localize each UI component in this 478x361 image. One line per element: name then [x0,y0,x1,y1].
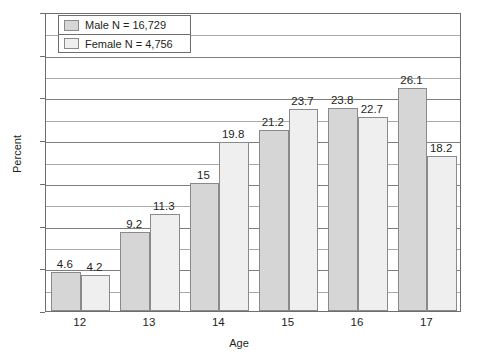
y-axis-title: Percent [11,109,23,199]
bar-female-age-14 [219,142,249,311]
legend-label-male: Male N = 16,729 [85,19,166,31]
x-tick-label-14: 14 [188,316,248,328]
legend: Male N = 16,729 Female N = 4,756 [58,15,191,53]
x-axis-title: Age [0,337,478,349]
legend-item-female: Female N = 4,756 [59,34,190,52]
x-tick-label-15: 15 [258,316,318,328]
x-tick-label-17: 17 [396,316,456,328]
x-tick-label-13: 13 [119,316,179,328]
bar-label-female-age-15: 23.7 [291,95,313,107]
bar-label-male-age-16: 23.8 [331,94,353,106]
bar-label-female-age-17: 18.2 [430,142,452,154]
bar-male-age-12 [51,272,81,311]
legend-label-female: Female N = 4,756 [85,38,173,50]
legend-swatch-female-icon [64,38,79,49]
bar-female-age-12 [81,275,111,311]
legend-item-male: Male N = 16,729 [59,16,190,34]
x-tick-label-12: 12 [50,316,110,328]
bar-label-female-age-14: 19.8 [222,128,244,140]
bar-label-male-age-14: 15 [197,169,210,181]
bar-label-female-age-16: 22.7 [361,103,383,115]
bar-male-age-14 [190,183,220,311]
bar-female-age-16 [358,117,388,311]
bar-label-male-age-12: 4.6 [57,258,73,270]
bar-female-age-17 [427,156,457,311]
legend-swatch-male-icon [64,20,79,31]
bar-female-age-13 [150,214,180,311]
bar-label-female-age-12: 4.2 [87,261,103,273]
bar-male-age-15 [259,130,289,311]
y-tick-mark [40,312,45,313]
bar-label-female-age-13: 11.3 [153,200,175,212]
gridline-minor [46,78,460,79]
gridline-major [46,57,460,58]
plot-area [45,13,461,312]
bar-chart: Percent 05101520253035 4.64.29.211.31519… [0,0,478,361]
bar-label-male-age-13: 9.2 [126,218,142,230]
bar-label-male-age-17: 26.1 [400,74,422,86]
bar-female-age-15 [289,109,319,311]
x-tick-label-16: 16 [327,316,387,328]
bar-male-age-13 [120,232,150,311]
bar-label-male-age-15: 21.2 [262,116,284,128]
bar-male-age-16 [328,108,358,311]
bar-male-age-17 [398,88,428,311]
